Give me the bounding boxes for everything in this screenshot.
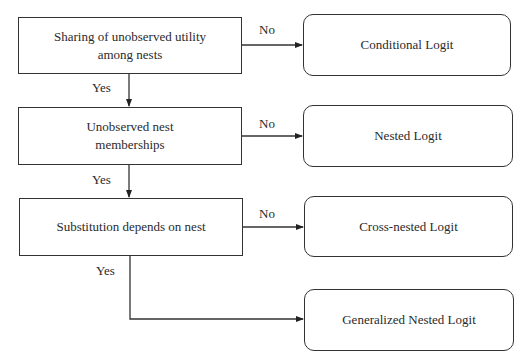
edge-label-yes-2: Yes (92, 172, 111, 188)
edge-label-no-2: No (259, 116, 275, 132)
edge-label-yes-3: Yes (96, 263, 115, 279)
decision-text: Substitution depends on nest (56, 218, 205, 236)
edge-label-no-1: No (259, 22, 275, 38)
outcome-text: Generalized Nested Logit (342, 311, 476, 329)
outcome-generalized-nested-logit: Generalized Nested Logit (304, 289, 514, 351)
decision-box-substitution: Substitution depends on nest (19, 198, 243, 256)
decision-text-line1: Sharing of unobserved utility (54, 28, 206, 46)
outcome-nested-logit: Nested Logit (303, 105, 513, 167)
outcome-text: Cross-nested Logit (359, 218, 458, 236)
decision-box-nest-memberships: Unobserved nest memberships (18, 107, 242, 165)
edge-label-yes-1: Yes (92, 80, 111, 96)
outcome-text: Nested Logit (374, 127, 442, 145)
decision-text-line2: memberships (86, 136, 173, 154)
edge-label-no-3: No (259, 206, 275, 222)
decision-box-shared-utility: Sharing of unobserved utility among nest… (18, 17, 242, 74)
outcome-conditional-logit: Conditional Logit (303, 14, 511, 76)
outcome-text: Conditional Logit (361, 36, 454, 54)
outcome-cross-nested-logit: Cross-nested Logit (304, 196, 513, 257)
decision-text-line2: among nests (54, 46, 206, 64)
decision-text-line1: Unobserved nest (86, 118, 173, 136)
